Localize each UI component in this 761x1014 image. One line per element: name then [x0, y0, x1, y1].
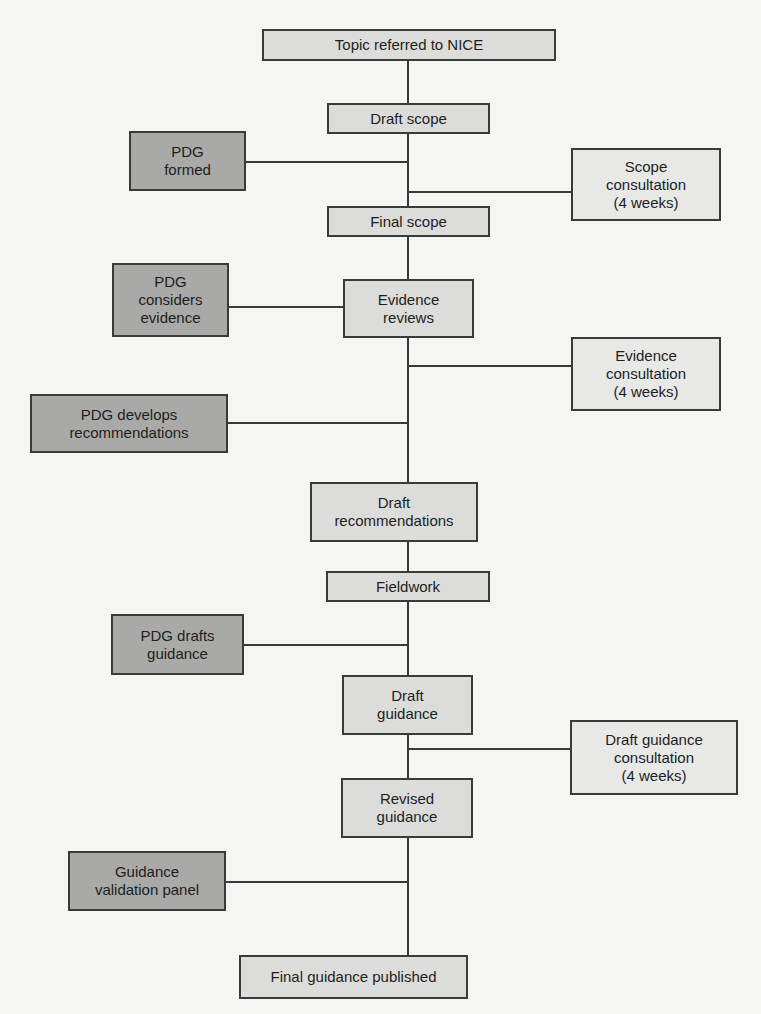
- connector-scope-consultation: [408, 191, 571, 193]
- step-topic-referred: Topic referred to NICE: [262, 29, 556, 61]
- step-draft-recommendations: Draft recommendations: [310, 482, 478, 542]
- step-fieldwork: Fieldwork: [326, 571, 490, 602]
- step-evidence-reviews: Evidence reviews: [343, 279, 474, 338]
- scope-consultation: Scope consultation (4 weeks): [571, 148, 721, 221]
- step-draft-scope: Draft scope: [327, 103, 490, 134]
- connector-pdg-drafts-guidance: [243, 644, 408, 646]
- pdg-drafts-guidance: PDG drafts guidance: [111, 614, 244, 675]
- pdg-formed: PDG formed: [129, 131, 246, 191]
- connector-draft-guidance-consultation: [408, 748, 570, 750]
- step-draft-guidance: Draft guidance: [342, 675, 473, 735]
- connector-guidance-validation-panel: [226, 881, 408, 883]
- connector-evidence-consultation: [408, 365, 571, 367]
- connector-pdg-considers-evidence: [229, 306, 343, 308]
- step-final-scope: Final scope: [327, 206, 490, 237]
- pdg-develops-recommendations: PDG develops recommendations: [30, 394, 228, 453]
- step-final-guidance-published: Final guidance published: [239, 955, 468, 999]
- evidence-consultation: Evidence consultation (4 weeks): [571, 337, 721, 411]
- connector-pdg-formed: [246, 161, 408, 163]
- step-revised-guidance: Revised guidance: [341, 778, 473, 838]
- connector-pdg-develops-recommendations: [228, 422, 408, 424]
- pdg-considers-evidence: PDG considers evidence: [112, 263, 229, 337]
- guidance-validation-panel: Guidance validation panel: [68, 851, 226, 911]
- nice-guidance-flowchart: Topic referred to NICE Draft scope Final…: [0, 0, 761, 1014]
- draft-guidance-consultation: Draft guidance consultation (4 weeks): [570, 720, 738, 795]
